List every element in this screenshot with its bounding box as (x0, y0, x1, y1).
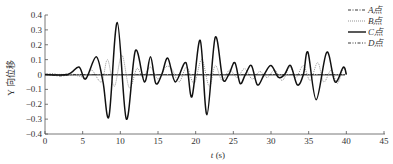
line-chart: 0.40.30.20.10−0.1−0.2−0.3−0.4 0510152025… (0, 0, 393, 164)
legend-label: C点 (368, 27, 384, 37)
y-tick-label: −0.4 (26, 129, 43, 139)
y-tick-label: 0 (38, 70, 43, 80)
x-tick-label: 40 (342, 136, 352, 146)
x-tick-label: 5 (80, 136, 85, 146)
legend-item: A点 (348, 5, 383, 15)
x-tick-label: 30 (267, 136, 277, 146)
legend-label: A点 (367, 5, 383, 15)
x-tick-label: 15 (154, 136, 164, 146)
x-tick-label: 0 (43, 136, 48, 146)
y-tick-label: −0.2 (26, 99, 42, 109)
y-tick-label: −0.1 (26, 84, 42, 94)
legend: A点B点C点D点 (348, 5, 384, 48)
x-tick-label: 45 (380, 136, 390, 146)
series-line-c (45, 22, 346, 119)
x-tick-label: 35 (304, 136, 314, 146)
x-tick-label: 10 (116, 136, 126, 146)
y-tick-label: 0.1 (31, 55, 42, 65)
y-tick-label: 0.2 (31, 40, 42, 50)
legend-label: B点 (368, 16, 383, 26)
y-tick-label: 0.3 (31, 25, 43, 35)
legend-item: C点 (348, 27, 384, 37)
x-axis-title-unit: (s) (213, 150, 225, 160)
x-tick-label: 20 (191, 136, 201, 146)
series-group (45, 22, 346, 119)
legend-item: D点 (348, 38, 384, 48)
legend-label: D点 (367, 38, 384, 48)
x-tick-label: 25 (229, 136, 239, 146)
y-axis-title: Y 向位移 (5, 60, 16, 95)
x-axis-title: t (s) (211, 150, 225, 160)
legend-item: B点 (348, 16, 383, 26)
y-tick-label: −0.3 (26, 114, 43, 124)
x-ticks: 051015202530354045 (43, 131, 389, 146)
y-tick-label: 0.4 (31, 10, 43, 20)
